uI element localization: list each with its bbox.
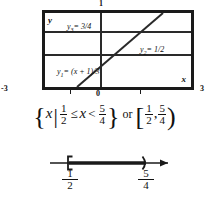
open-bracket: [ <box>136 102 145 131</box>
relation-less-than: < <box>86 106 97 121</box>
x-axis-label: x <box>182 75 187 84</box>
axis-tick-mark <box>70 90 71 94</box>
close-paren: ) <box>167 102 176 131</box>
fraction-denominator: 4 <box>99 115 107 126</box>
fraction-denominator: 4 <box>138 180 154 191</box>
interval-lower-fraction: 12 <box>144 103 154 126</box>
number-line-label-left: 12 <box>62 168 78 191</box>
arrowhead-right-icon <box>160 159 168 166</box>
relation-less-equal: ≤ <box>68 106 79 121</box>
tick-label-right: 3 <box>200 85 204 93</box>
number-line-label-right: 54 <box>138 168 154 191</box>
tick-label-left: -3 <box>1 85 8 93</box>
fraction-five-fourths: 54 <box>98 103 108 126</box>
label-function-y2: y2= 1/2 <box>140 46 164 56</box>
interval-upper-fraction: 54 <box>157 103 167 126</box>
fraction-denominator: 2 <box>60 115 68 126</box>
number-line-svg <box>0 152 209 182</box>
label-y1-rhs: = (x + 1)/3 <box>64 67 100 76</box>
set-variable: x <box>46 105 53 121</box>
tick-label-origin: 0 <box>96 90 100 98</box>
fraction-denominator: 4 <box>158 115 166 126</box>
axis-tick-mark <box>140 90 141 94</box>
y-axis-label: y <box>48 16 52 25</box>
fraction-denominator: 2 <box>145 115 153 126</box>
label-function-y3: y3= 3/4 <box>67 23 91 33</box>
tick-label-top: 1 <box>99 0 103 8</box>
label-y2-rhs: = 1/2 <box>147 45 165 54</box>
close-brace: } <box>107 102 119 131</box>
number-line-diagram: 12 54 <box>0 152 209 199</box>
open-brace: { <box>33 102 45 131</box>
connector-or: or <box>120 107 136 121</box>
label-function-y1: y1= (x + 1)/3 <box>57 68 99 78</box>
label-y3-rhs: = 3/4 <box>74 22 92 31</box>
fraction-one-half: 12 <box>59 103 69 126</box>
graphing-calculator-window: y x y3= 3/4 y2= 1/2 y1= (x + 1)/3 <box>42 10 194 90</box>
solution-expression: {x|12≤x<54}or[12,54) <box>0 103 209 130</box>
fraction-denominator: 2 <box>62 180 78 191</box>
